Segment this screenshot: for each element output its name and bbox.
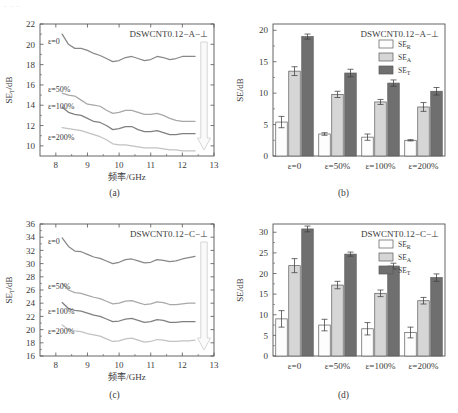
panel-d-bar-chart: 051015202530SE/dBDSWCNT0.12−C−⊥ε=0ε=50%ε… (229, 210, 458, 413)
legend-swatch-T (379, 266, 393, 274)
y-axis-title: SE/dB (235, 278, 245, 302)
y-tick-label: 20 (26, 40, 36, 50)
bar-SE_T-ε-0 (302, 229, 314, 356)
panel-title: DSWCNT0.12−A−⊥ (361, 29, 439, 39)
x-tick-label: 10 (115, 360, 125, 370)
x-tick-label: 13 (210, 160, 220, 170)
y-tick-label: 34 (26, 232, 36, 242)
bar-SE_T-ε-50pct (345, 73, 357, 156)
trend-down-arrow-icon (198, 42, 211, 150)
panel-b-plot: 05101520SE/dBDSWCNT0.12−A−⊥ε=0ε=50%ε=100… (229, 10, 458, 195)
y-tick-label: 18 (26, 60, 36, 70)
legend-label-A: SEA (398, 253, 412, 263)
curve-ε-0 (62, 238, 195, 264)
y-tick-label: 32 (26, 246, 35, 256)
x-tick-label: 8 (54, 360, 59, 370)
curve-label-0: ε=0 (48, 37, 60, 46)
bar-SE_A-ε-0 (289, 71, 301, 156)
curve-label-1: ε=50% (48, 85, 71, 94)
y-axis-title: SET/dB (4, 276, 15, 303)
y-tick-label: 26 (26, 285, 36, 295)
bar-SE_T-ε-50pct (345, 254, 357, 356)
panel-c-caption: (c) (0, 390, 229, 400)
y-tick-label: 18 (26, 338, 36, 348)
bar-SE_A-ε-200pct (418, 107, 430, 156)
curve-label-3: ε=200% (48, 327, 75, 336)
curve-label-1: ε=50% (48, 282, 71, 291)
x-tick-label: 10 (115, 160, 125, 170)
y-tick-label: 22 (26, 19, 35, 29)
bar-SE_T-ε-100pct (388, 266, 400, 356)
curve-label-3: ε=200% (48, 133, 75, 142)
bar-SE_A-ε-50pct (332, 94, 344, 156)
x-tick-label: 12 (178, 360, 187, 370)
panel-a-caption: (a) (0, 188, 229, 198)
legend-swatch-R (379, 40, 393, 48)
y-tick-label: 0 (264, 151, 269, 161)
y-tick-label: 14 (26, 100, 36, 110)
bar-SE_A-ε-100pct (375, 102, 387, 156)
x-tick-label: 9 (85, 160, 90, 170)
x-tick-label: 12 (178, 160, 187, 170)
x-category-label: ε=100% (366, 161, 396, 171)
curve-ε-100pct (62, 303, 195, 323)
y-tick-label: 28 (26, 272, 36, 282)
y-tick-label: 22 (26, 312, 35, 322)
y-tick-label: 10 (26, 141, 36, 151)
x-axis-title: 频率/GHz (108, 371, 146, 382)
bar-SE_A-ε-0 (289, 266, 301, 356)
figure-sheet: · · · 101214161820228910111213频率/GHzSET/… (0, 0, 458, 413)
panel-d-plot: 051015202530SE/dBDSWCNT0.12−C−⊥ε=0ε=50%ε… (229, 210, 458, 395)
curve-ε-200pct (62, 128, 195, 151)
panel-a-plot: 101214161820228910111213频率/GHzSET/dBDSWC… (0, 10, 229, 195)
x-category-label: ε=200% (409, 161, 439, 171)
legend-label-R: SER (398, 40, 411, 50)
legend-label-R: SER (398, 240, 411, 250)
legend-swatch-R (379, 240, 393, 248)
y-tick-label: 20 (259, 269, 269, 279)
bar-SE_T-ε-0 (302, 37, 314, 156)
curve-ε-50pct (62, 283, 195, 304)
x-tick-label: 8 (54, 160, 59, 170)
bar-SE_T-ε-200pct (431, 91, 443, 156)
bar-SE_A-ε-100pct (375, 293, 387, 356)
y-tick-label: 25 (259, 248, 269, 258)
legend-label-T: SET (398, 266, 411, 276)
curve-ε-50pct (62, 93, 195, 121)
panel-d-caption: (d) (229, 390, 458, 400)
panel-c-line-chart: 16182022242628303234368910111213频率/GHzSE… (0, 210, 229, 413)
bar-SE_A-ε-200pct (418, 301, 430, 356)
y-tick-label: 0 (264, 351, 269, 361)
x-tick-label: 9 (85, 360, 90, 370)
trend-down-arrow-icon (198, 242, 211, 350)
bar-SE_R-ε-200pct (405, 140, 417, 156)
legend-swatch-A (379, 253, 393, 261)
panel-c-plot: 16182022242628303234368910111213频率/GHzSE… (0, 210, 229, 395)
legend-label-T: SET (398, 66, 411, 76)
x-tick-label: 13 (210, 360, 220, 370)
bar-SE_T-ε-200pct (431, 278, 443, 356)
y-tick-label: 16 (26, 351, 36, 361)
curve-label-0: ε=0 (48, 237, 60, 246)
y-tick-label: 16 (26, 80, 36, 90)
x-category-label: ε=100% (366, 361, 396, 371)
x-category-label: ε=50% (325, 361, 351, 371)
y-tick-label: 24 (26, 298, 36, 308)
panel-title: DSWCNT0.12−C−⊥ (130, 229, 208, 239)
y-tick-label: 15 (259, 57, 269, 67)
panel-a-line-chart: 101214161820228910111213频率/GHzSET/dBDSWC… (0, 10, 229, 210)
curve-ε-200pct (62, 325, 195, 342)
panel-title: DSWCNT0.12−A−⊥ (130, 29, 208, 39)
y-tick-label: 15 (259, 289, 269, 299)
panel-title: DSWCNT0.12−C−⊥ (361, 229, 439, 239)
curve-label-2: ε=100% (48, 307, 75, 316)
figure-panel-grid: 101214161820228910111213频率/GHzSET/dBDSWC… (0, 10, 458, 413)
y-tick-label: 20 (26, 325, 36, 335)
legend-swatch-A (379, 53, 393, 61)
x-tick-label: 11 (146, 160, 155, 170)
y-tick-label: 30 (259, 227, 269, 237)
x-category-label: ε=0 (288, 361, 302, 371)
legend-swatch-T (379, 66, 393, 74)
y-tick-label: 12 (26, 121, 35, 131)
y-tick-label: 20 (259, 25, 269, 35)
